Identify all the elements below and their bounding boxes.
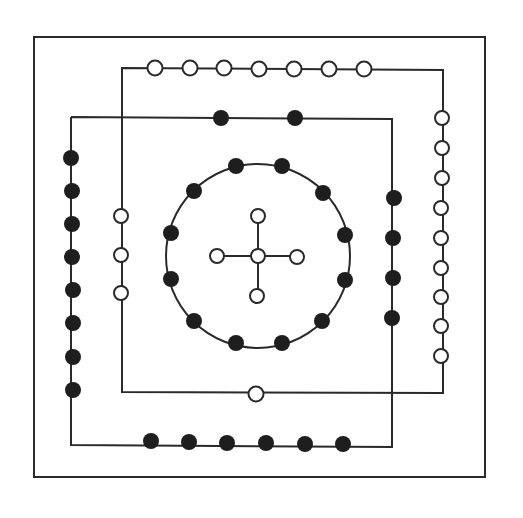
left-inner-white-dots [114,209,128,300]
center-cross-white-dots [210,209,304,303]
bottom-inner-white-dot [249,387,264,402]
right-outer-white-dots [434,111,449,363]
bottom-outer-black-dots [143,433,351,452]
he-tu-diagram [0,0,523,518]
